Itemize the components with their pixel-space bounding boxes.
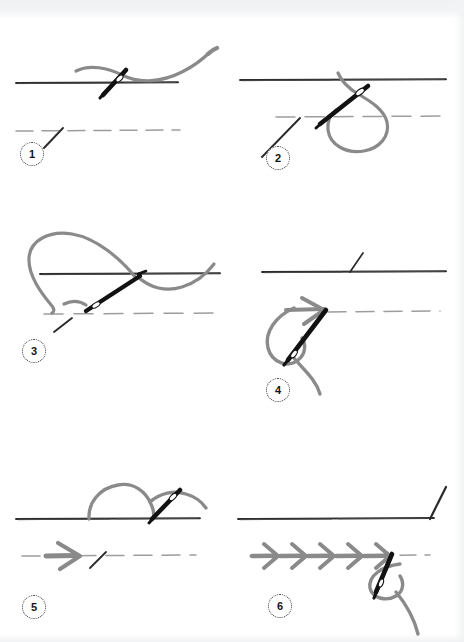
exit-tick-mark [430, 487, 446, 519]
step-6-illustration [232, 440, 464, 640]
step-panel-6: 6 Row of five completed arrowhead chevro… [232, 440, 464, 640]
step-number-5: 5 [31, 602, 37, 613]
chevron-3 [308, 544, 334, 568]
step-badge-1: 1 [20, 142, 44, 166]
thread-tail [396, 592, 418, 634]
step-panel-1: 1 Needle enters the fabric on the upper … [0, 18, 232, 190]
lower-dashed-line [328, 311, 440, 312]
lower-dashed-line [16, 130, 180, 131]
needle [284, 310, 326, 365]
step-number-6: 6 [277, 601, 283, 612]
lower-dashed-line [44, 313, 216, 314]
thread-tail-tip [208, 48, 217, 54]
thread-tail [294, 358, 320, 394]
completed-chevron-row [252, 544, 390, 568]
needle [316, 86, 368, 128]
needle-eye [354, 87, 365, 97]
step-number-3: 3 [31, 346, 37, 357]
chevron-2 [280, 544, 306, 568]
diagram-page: Chevron / Arrowhead Stitch — Six Step Il… [0, 0, 464, 642]
needle [86, 271, 146, 311]
thread-arch [89, 484, 154, 519]
lower-dashed-line [276, 116, 446, 117]
needle-eye [91, 301, 101, 310]
needle-eye [377, 578, 384, 587]
needle [100, 70, 126, 98]
step-panel-3: 3 Thread drawn into a large loop above t… [0, 200, 232, 420]
step-panel-2: 2 Needle pulled down at an angle, thread… [232, 18, 464, 190]
step-badge-2: 2 [266, 146, 290, 170]
needle-eye [289, 349, 298, 359]
exit-tick-mark [350, 253, 363, 272]
step-number-1: 1 [29, 149, 35, 160]
entry-tick-mark [90, 552, 106, 568]
thread-path [76, 52, 210, 81]
step-3-illustration [0, 200, 232, 420]
step-number-2: 2 [275, 153, 281, 164]
entry-tick-mark [54, 318, 72, 332]
scan-edge-top [0, 0, 464, 18]
chevron-4 [336, 544, 362, 568]
step-panel-4: 4 First arrowhead formed on the lower da… [232, 200, 464, 420]
thread-loop-lower [267, 308, 304, 364]
thread-stub [64, 301, 86, 305]
step-badge-4: 4 [266, 378, 290, 402]
step-badge-5: 5 [22, 595, 46, 619]
step-badge-6: 6 [268, 594, 292, 618]
thread-path-right [138, 264, 214, 289]
chevron-1 [252, 544, 278, 568]
step-panel-5: 5 Arched stitch completed on the upper l… [0, 440, 232, 640]
step-badge-3: 3 [22, 339, 46, 363]
step-number-4: 4 [275, 385, 281, 396]
